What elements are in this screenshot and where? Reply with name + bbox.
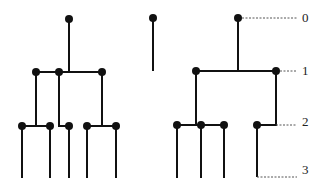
node-root-right [234,14,242,22]
node [192,67,200,75]
node [173,121,181,129]
node [18,122,26,130]
node [253,121,261,129]
node-root-left [65,15,73,23]
left-tree [18,15,120,178]
node [272,67,280,75]
node [220,121,228,129]
node [83,122,91,130]
tree-diagram: 0 1 2 3 [0,0,325,191]
middle-tree [149,14,157,71]
depth-label-1: 1 [302,63,309,78]
node-single [149,14,157,22]
depth-label-3: 3 [302,162,309,177]
depth-label-0: 0 [302,10,309,25]
node [197,121,205,129]
right-tree [173,14,280,178]
depth-label-2: 2 [302,114,309,129]
node [55,68,63,76]
node [98,68,106,76]
node [46,122,54,130]
node [32,68,40,76]
node [112,122,120,130]
node [65,122,73,130]
